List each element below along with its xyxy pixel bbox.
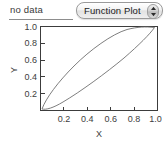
plot-type-popup-menu[interactable]: Function Plot bbox=[76, 2, 163, 19]
plot-curve-group bbox=[42, 27, 155, 109]
x-axis-tick-labels: 0.2 0.4 0.6 0.8 1.0 bbox=[58, 114, 162, 124]
y-tick-label: 0.4 bbox=[24, 72, 37, 82]
x-tick-label: 0.6 bbox=[104, 114, 117, 124]
y-tick-label: 1.0 bbox=[24, 22, 37, 32]
plot-type-popup-label: Function Plot bbox=[84, 5, 141, 16]
y-axis-ticks bbox=[41, 27, 45, 94]
y-axis-tick-labels: 1.0 0.8 0.6 0.4 0.2 bbox=[24, 22, 37, 99]
status-label-no-data: no data bbox=[10, 4, 43, 15]
function-plot-svg: 1.0 0.8 0.6 0.4 0.2 0.2 0.4 0.6 0.8 1.0 … bbox=[0, 20, 168, 149]
x-axis-ticks bbox=[64, 107, 158, 111]
curve-upper-branch bbox=[42, 27, 155, 109]
y-tick-label: 0.6 bbox=[24, 55, 37, 65]
x-tick-label: 0.4 bbox=[81, 114, 94, 124]
function-plot-widget: no data Function Plot bbox=[0, 0, 168, 149]
x-tick-label: 1.0 bbox=[149, 114, 162, 124]
widget-header: no data Function Plot bbox=[0, 0, 168, 22]
plot-frame bbox=[41, 27, 158, 111]
y-tick-label: 0.8 bbox=[24, 38, 37, 48]
x-tick-label: 0.2 bbox=[58, 114, 71, 124]
up-down-arrows-icon[interactable] bbox=[147, 4, 159, 19]
curve-lower-branch bbox=[42, 28, 155, 110]
plot-area[interactable]: 1.0 0.8 0.6 0.4 0.2 0.2 0.4 0.6 0.8 1.0 … bbox=[0, 20, 168, 149]
x-axis-title: X bbox=[96, 129, 102, 139]
y-axis-title: Y bbox=[9, 67, 19, 73]
x-tick-label: 0.8 bbox=[128, 114, 141, 124]
y-tick-label: 0.2 bbox=[24, 89, 37, 99]
